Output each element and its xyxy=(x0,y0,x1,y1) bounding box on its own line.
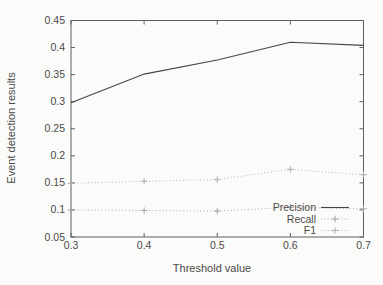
series-f1-marker xyxy=(214,176,220,182)
series-f1-marker xyxy=(68,180,74,186)
plot-area: 0.30.40.50.60.70.050.10.150.20.250.30.35… xyxy=(45,14,371,251)
legend-label-recall: Recall xyxy=(287,213,316,225)
series-recall-marker xyxy=(360,206,366,212)
y-tick-label: 0.3 xyxy=(50,95,65,107)
plot-border xyxy=(71,21,364,238)
series-precision-line xyxy=(71,42,364,103)
y-tick-label: 0.4 xyxy=(50,41,65,53)
y-axis-label: Event detection results xyxy=(5,72,17,184)
series-recall-marker xyxy=(214,208,220,214)
legend-label-precision: Precision xyxy=(273,201,316,213)
y-tick-label: 0.25 xyxy=(45,122,66,134)
series-recall-marker xyxy=(68,207,74,213)
y-tick-label: 0.05 xyxy=(45,231,66,243)
x-tick-label: 0.7 xyxy=(356,239,371,251)
legend-label-f1: F1 xyxy=(304,224,316,236)
y-tick-label: 0.2 xyxy=(50,149,65,161)
line-chart: 0.30.40.50.60.70.050.10.150.20.250.30.35… xyxy=(0,0,383,285)
x-tick-label: 0.4 xyxy=(137,239,152,251)
series-f1-marker xyxy=(287,166,293,172)
legend-marker-recall xyxy=(332,216,338,222)
y-tick-label: 0.15 xyxy=(45,176,66,188)
series-recall-marker xyxy=(141,207,147,213)
series-f1-marker xyxy=(141,178,147,184)
series-f1-marker xyxy=(360,172,366,178)
legend-marker-f1 xyxy=(332,227,338,233)
y-tick-label: 0.45 xyxy=(45,14,66,26)
chart-figure: 0.30.40.50.60.70.050.10.150.20.250.30.35… xyxy=(0,0,383,285)
x-tick-label: 0.6 xyxy=(283,239,298,251)
x-tick-label: 0.5 xyxy=(210,239,225,251)
x-axis-label: Threshold value xyxy=(173,262,251,274)
x-tick-label: 0.3 xyxy=(64,239,79,251)
y-tick-label: 0.35 xyxy=(45,68,66,80)
y-tick-label: 0.1 xyxy=(50,203,65,215)
